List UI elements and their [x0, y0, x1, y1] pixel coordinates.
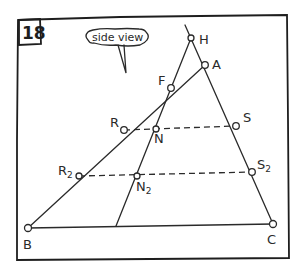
label-A: A [212, 57, 221, 72]
line-B-C [28, 224, 273, 228]
point-B [25, 225, 32, 232]
label-S2: S2 [257, 157, 271, 174]
point-A [202, 62, 209, 69]
dashed-R-S [124, 126, 236, 130]
label-R: R [110, 115, 119, 130]
panel-number: 18 [22, 23, 46, 43]
line-H-C [185, 25, 273, 224]
label-H: H [199, 32, 209, 47]
diagram-canvas: 18 side view H A F R N S R2 N2 S2 B C [0, 0, 299, 275]
label-S: S [243, 110, 251, 125]
label-F: F [158, 73, 165, 88]
point-S [233, 123, 240, 130]
label-B: B [23, 237, 32, 252]
panel-frame [17, 15, 289, 260]
label-R2: R2 [58, 163, 73, 180]
point-C [270, 221, 277, 228]
point-R [121, 127, 128, 134]
label-N2: N2 [136, 179, 151, 196]
label-N: N [154, 131, 164, 146]
callout-pointer [118, 45, 126, 73]
point-R2 [76, 173, 82, 179]
line-B-A [28, 65, 205, 228]
point-F [168, 85, 175, 92]
point-S2 [249, 169, 256, 176]
callout-text: side view [92, 31, 143, 44]
label-C: C [267, 232, 276, 247]
dashed-R2-S2 [79, 172, 252, 176]
point-H [188, 35, 194, 41]
